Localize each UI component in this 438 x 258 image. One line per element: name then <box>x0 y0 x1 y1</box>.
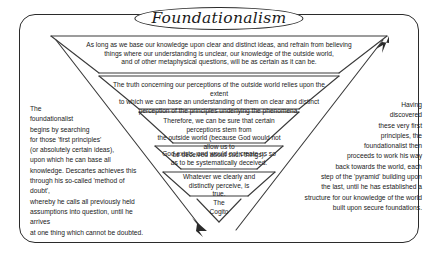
diagram-title: Foundationalism <box>134 7 303 30</box>
right-explanatory-note: Having discovered these very first princ… <box>286 100 422 213</box>
apex-cogito-text: The Cogito <box>191 199 247 216</box>
left-explanatory-note: The foundationalist begins by searching … <box>30 104 146 238</box>
band-1-text: As long as we base our knowledge upon cl… <box>68 41 370 67</box>
arrow-up-from-cogito <box>376 36 389 53</box>
band-5-text: Whatever we clearly and distinctly perce… <box>172 173 266 199</box>
arrow-down-to-cogito <box>192 218 207 237</box>
diagram-canvas: Foundationalism <box>0 0 438 258</box>
band-4-text: God exists, and would not create us so a… <box>162 150 276 167</box>
